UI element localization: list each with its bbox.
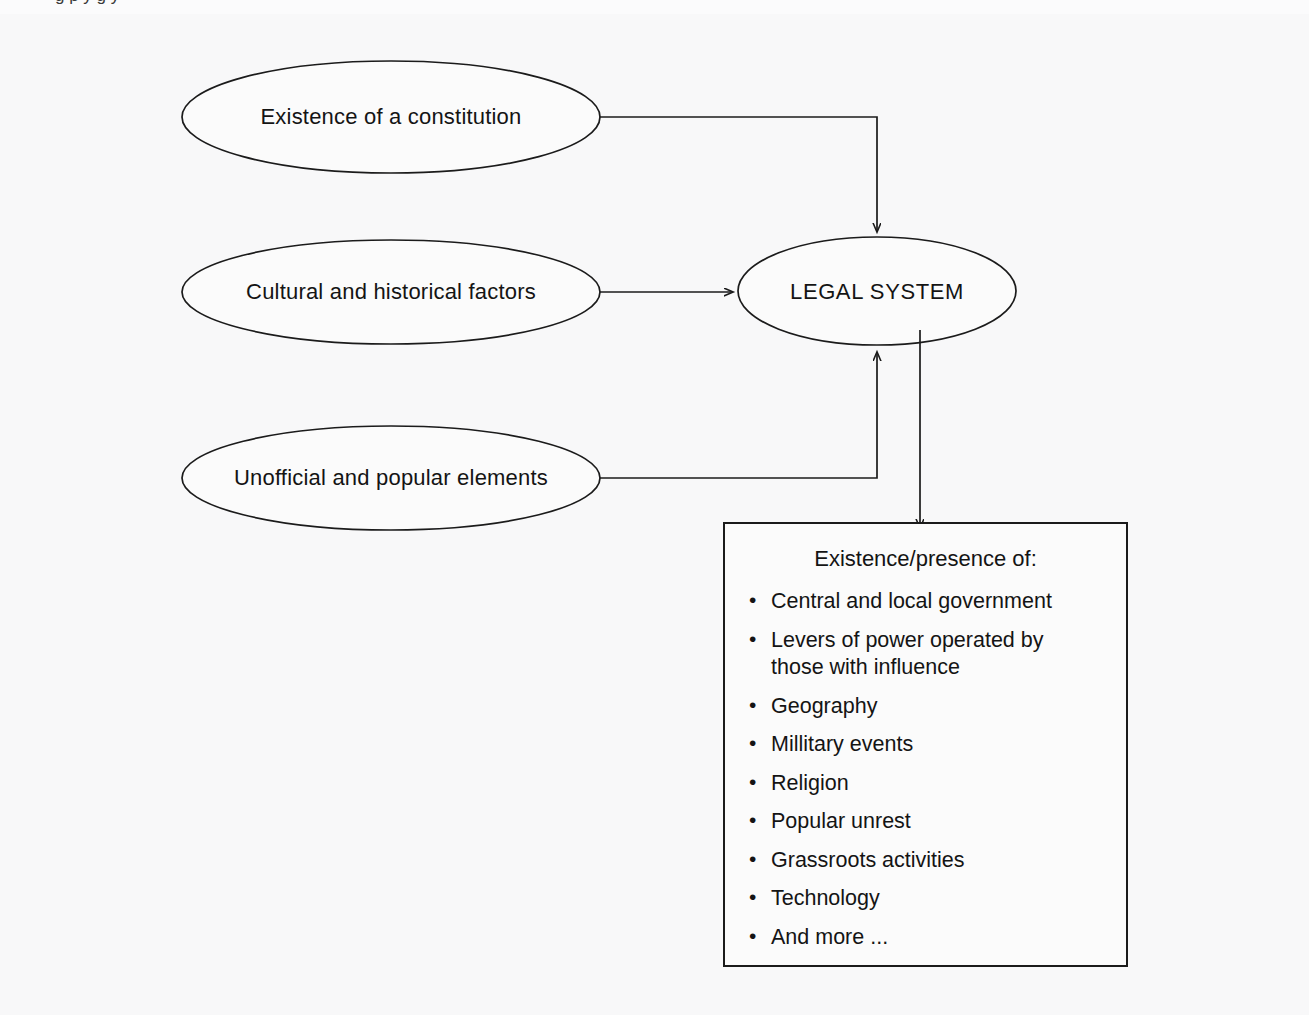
node-unofficial-popular[interactable] xyxy=(182,426,600,530)
list-item-label: Grassroots activities xyxy=(771,848,965,872)
bullet-glyph: • xyxy=(749,587,756,614)
bullet-glyph: • xyxy=(749,846,756,873)
list-item: • And more ... xyxy=(749,924,1112,952)
list-item-label: Millitary events xyxy=(771,732,913,756)
list-item: • Millitary events xyxy=(749,731,1112,759)
list-item-label-line2: those with influence xyxy=(771,655,960,679)
list-item-label: Popular unrest xyxy=(771,809,911,833)
list-item-label: And more ... xyxy=(771,925,888,949)
list-item: • Central and local government xyxy=(749,588,1112,616)
list-item-label: Religion xyxy=(771,771,849,795)
list-item: • Geography xyxy=(749,693,1112,721)
bullet-glyph: • xyxy=(749,769,756,796)
bullet-glyph: • xyxy=(749,626,756,653)
node-constitution[interactable] xyxy=(182,61,600,173)
list-item: • Grassroots activities xyxy=(749,847,1112,875)
list-item: • Religion xyxy=(749,770,1112,798)
list-item-label: Central and local government xyxy=(771,589,1052,613)
node-cultural-historical[interactable] xyxy=(182,240,600,344)
edge-unofficial-to-legal-system xyxy=(600,352,877,478)
bullet-glyph: • xyxy=(749,692,756,719)
list-item: • Levers of power operated by those with… xyxy=(749,627,1112,682)
info-box-list: • Central and local government • Levers … xyxy=(725,588,1126,951)
list-item-label: Geography xyxy=(771,694,877,718)
info-box-title: Existence/presence of: xyxy=(725,546,1126,572)
node-legal-system[interactable] xyxy=(738,237,1016,345)
edge-constitution-to-legal-system xyxy=(600,117,877,232)
list-item-label-line1: Levers of power operated by xyxy=(771,628,1044,652)
list-item: • Popular unrest xyxy=(749,808,1112,836)
figure-canvas: g p y g y Existence of xyxy=(0,0,1309,1015)
bullet-glyph: • xyxy=(749,730,756,757)
bullet-glyph: • xyxy=(749,884,756,911)
bullet-glyph: • xyxy=(749,807,756,834)
list-item-label: Technology xyxy=(771,886,880,910)
bullet-glyph: • xyxy=(749,923,756,950)
existence-presence-box[interactable]: Existence/presence of: • Central and loc… xyxy=(723,522,1128,967)
list-item: • Technology xyxy=(749,885,1112,913)
